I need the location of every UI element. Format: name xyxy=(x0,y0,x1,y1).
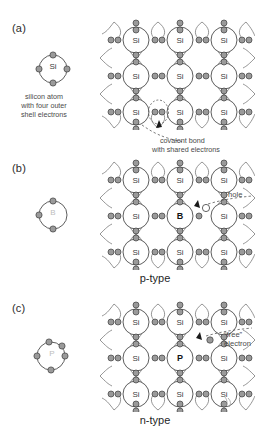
lattice-c-atom-dopant: P xyxy=(177,353,183,363)
lattice-a-atom-r3c3: Si xyxy=(220,108,227,117)
free-electron-arrow xyxy=(196,332,202,340)
lattice-a-atom-r3c2: Si xyxy=(176,108,183,117)
lattice-a-atom-r3c1: Si xyxy=(132,108,139,117)
panel-b-label: (b) xyxy=(12,162,26,174)
caption-a-line3: shell electrons xyxy=(5,110,83,119)
lattice-a-atom-r1c2: Si xyxy=(176,36,183,45)
lattice-a-atoms: Si Si Si Si Si Si Si Si Si xyxy=(123,27,237,125)
annotation-a-line2: with shared electrons xyxy=(152,145,258,154)
lattice-b-atom-r3c3: Si xyxy=(220,248,227,257)
panel-c-label: (c) xyxy=(12,302,25,314)
lattice-c-atom-r1c3: Si xyxy=(220,318,227,327)
caption-a-line1: silicon atom xyxy=(5,92,83,101)
free-electron-marker xyxy=(207,337,213,343)
lattice-b-atom-r1c2: Si xyxy=(176,176,183,185)
lattice-b-atom-r2c3: Si xyxy=(220,212,227,221)
lattice-a-atom-r2c3: Si xyxy=(220,72,227,81)
semiconductor-doping-figure: (a) Si silicon atom with four outer shel… xyxy=(0,0,258,445)
lattice-a-atom-r1c3: Si xyxy=(220,36,227,45)
annotation-b-hole: hole xyxy=(228,190,258,199)
p-type-label: p-type xyxy=(110,272,200,284)
lattice-c-atom-r3c3: Si xyxy=(220,390,227,399)
lattice-b-atom-r3c2: Si xyxy=(176,248,183,257)
lattice-c: Si Si Si Si P Si Si Si Si xyxy=(100,300,255,412)
lattice-b-atom-r2c1: Si xyxy=(132,212,139,221)
hole-marker xyxy=(202,204,209,211)
lattice-a-atom-r2c2: Si xyxy=(176,72,183,81)
lattice-b-atoms: Si Si Si Si B Si Si Si Si xyxy=(123,167,237,265)
panel-a-label: (a) xyxy=(12,22,26,34)
lattice-b-atom-r1c3: Si xyxy=(220,176,227,185)
lattice-b-atom-dopant: B xyxy=(177,211,184,221)
annotation-a-line1: covalent bond xyxy=(160,136,258,145)
lattice-c-atom-r3c1: Si xyxy=(132,390,139,399)
lattice-c-atom-r1c2: Si xyxy=(176,318,183,327)
lattice-b: Si Si Si Si B Si Si Si Si xyxy=(100,158,255,270)
boron-atom-diagram xyxy=(24,192,82,238)
annotation-c-line2: electron xyxy=(224,339,258,348)
lattice-c-atom-r3c2: Si xyxy=(176,390,183,399)
lattice-a-atom-r1c1: Si xyxy=(132,36,139,45)
lattice-b-atom-r1c1: Si xyxy=(132,176,139,185)
hole-arrow xyxy=(194,200,200,208)
caption-a-line2: with four outer xyxy=(5,101,83,110)
n-type-label: n-type xyxy=(110,414,200,426)
phosphorus-atom-diagram xyxy=(22,332,82,380)
lattice-c-atom-r2c3: Si xyxy=(220,354,227,363)
lattice-b-atom-r3c1: Si xyxy=(132,248,139,257)
silicon-atom-diagram xyxy=(24,48,82,90)
lattice-a-atom-r2c1: Si xyxy=(132,72,139,81)
lattice-a: Si Si Si Si Si Si Si Si Si xyxy=(100,18,255,130)
lattice-c-atom-r2c1: Si xyxy=(132,354,139,363)
annotation-c-line1: “free” xyxy=(224,330,258,339)
lattice-c-atoms: Si Si Si Si P Si Si Si Si xyxy=(123,309,237,407)
lattice-c-atom-r1c1: Si xyxy=(132,318,139,327)
